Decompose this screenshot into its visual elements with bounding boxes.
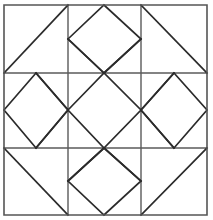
quilt-block-figure: [0, 0, 213, 220]
quilt-block-drawing: [0, 0, 213, 220]
canvas-background: [0, 0, 213, 220]
